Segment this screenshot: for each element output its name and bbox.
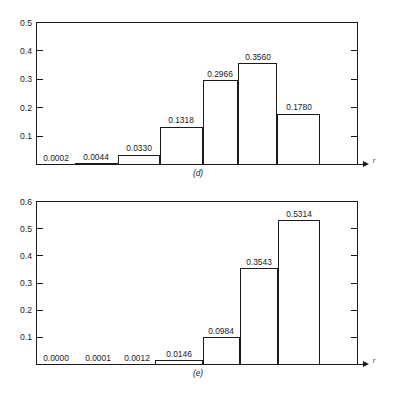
x-axis-line-d <box>36 164 367 165</box>
bar-d-7 <box>277 114 320 165</box>
y-tick-mark-right-d-2 <box>351 107 358 108</box>
bar-e-1 <box>36 364 75 365</box>
y-tick-mark-right-e-5 <box>351 228 358 229</box>
y-tick-label-e-6: 0.6 <box>8 198 32 207</box>
y-tick-mark-d-2 <box>36 107 43 108</box>
y-tick-mark-right-e-4 <box>351 255 358 256</box>
x-axis-arrowhead-d <box>363 161 369 167</box>
y-tick-mark-right-e-3 <box>351 283 358 284</box>
panel-caption-d: (d) <box>176 169 220 177</box>
x-axis-arrowhead-e <box>363 361 369 367</box>
bar-e-7 <box>278 220 320 364</box>
bar-value-e-5: 0.0984 <box>197 327 245 335</box>
bar-value-d-5: 0.2966 <box>196 70 244 78</box>
y-tick-label-e-1: 0.1 <box>8 333 32 342</box>
y-tick-label-d-5: 0.5 <box>8 19 32 28</box>
bar-value-d-7: 0.1780 <box>275 103 323 111</box>
y-tick-label-e-5: 0.5 <box>8 225 32 234</box>
y-tick-mark-e-4 <box>36 255 43 256</box>
x-axis-label-d: r <box>373 158 375 165</box>
y-tick-label-e-3: 0.3 <box>8 279 32 288</box>
y-tick-mark-e-1 <box>36 337 43 338</box>
y-tick-label-d-3: 0.3 <box>8 75 32 84</box>
bar-e-4 <box>155 360 203 364</box>
bar-value-e-7: 0.5314 <box>275 210 323 218</box>
y-tick-mark-right-d-3 <box>351 79 358 80</box>
y-tick-label-d-4: 0.4 <box>8 47 32 56</box>
y-tick-mark-right-e-1 <box>351 337 358 338</box>
x-axis-label-e: r <box>373 358 375 365</box>
histogram-panel-d: r 0.5 0.4 0.3 0.2 0.1 0.0002 0.0044 0.03… <box>0 0 398 196</box>
y-tick-label-d-1: 0.1 <box>8 132 32 141</box>
bar-d-5 <box>203 80 238 164</box>
bar-value-e-6: 0.3543 <box>235 258 283 266</box>
y-tick-mark-d-3 <box>36 79 43 80</box>
bar-e-2 <box>75 364 118 365</box>
bar-d-1 <box>36 164 75 165</box>
bar-d-2 <box>75 163 118 164</box>
bar-value-d-4: 0.1318 <box>157 116 205 124</box>
histogram-panel-e: r 0.6 0.5 0.4 0.3 0.2 0.1 0.0000 0.0001 … <box>0 196 398 393</box>
bar-e-6 <box>240 268 278 364</box>
y-tick-label-d-2: 0.2 <box>8 104 32 113</box>
bar-d-3 <box>118 155 160 164</box>
panel-caption-e: (e) <box>176 369 220 377</box>
bar-value-e-3: 0.0012 <box>113 354 161 362</box>
bar-value-e-1: 0.0000 <box>32 354 80 362</box>
bar-e-5 <box>203 337 240 364</box>
bar-value-e-4: 0.0146 <box>155 350 203 358</box>
y-tick-mark-right-d-4 <box>351 50 358 51</box>
y-tick-label-e-2: 0.2 <box>8 306 32 315</box>
y-tick-mark-e-5 <box>36 228 43 229</box>
bar-value-d-2: 0.0044 <box>72 153 120 161</box>
y-tick-mark-d-4 <box>36 50 43 51</box>
y-tick-mark-e-2 <box>36 310 43 311</box>
bar-value-d-3: 0.0330 <box>115 144 163 152</box>
y-tick-mark-right-e-2 <box>351 310 358 311</box>
bar-e-3 <box>118 364 155 365</box>
y-tick-mark-d-1 <box>36 136 43 137</box>
y-tick-mark-e-3 <box>36 283 43 284</box>
y-tick-label-e-4: 0.4 <box>8 252 32 261</box>
bar-d-4 <box>160 127 203 164</box>
bar-d-6 <box>238 63 277 164</box>
y-tick-mark-right-d-1 <box>351 136 358 137</box>
bar-value-d-6: 0.3560 <box>234 53 282 61</box>
